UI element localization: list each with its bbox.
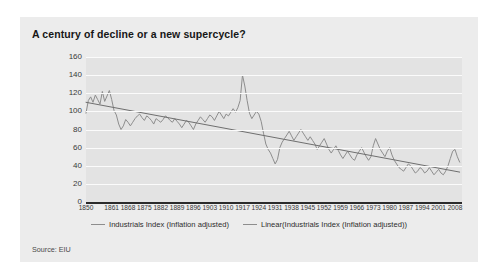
legend-label: Industrials Index (Inflation adjusted) bbox=[109, 220, 229, 229]
gridline bbox=[86, 75, 462, 76]
x-axis-tick-label: 1945 bbox=[301, 205, 316, 212]
chart-card: A century of decline or a new supercycle… bbox=[20, 17, 478, 262]
x-axis-tick-label: 1987 bbox=[399, 205, 414, 212]
y-axis-tick-label: 120 bbox=[69, 89, 82, 97]
legend-item[interactable]: Linear(Industrials Index (Inflation adju… bbox=[243, 220, 407, 229]
y-axis-tick-label: 20 bbox=[73, 180, 82, 188]
y-axis: 020406080100120140160 bbox=[56, 57, 82, 202]
y-axis-tick-label: 160 bbox=[69, 53, 82, 61]
y-axis-tick-label: 80 bbox=[73, 126, 82, 134]
y-axis-tick-label: 60 bbox=[73, 144, 82, 152]
x-axis-tick-label: 1861 bbox=[104, 205, 119, 212]
gridline bbox=[86, 148, 462, 149]
gridline bbox=[86, 166, 462, 167]
legend-swatch-icon bbox=[91, 224, 105, 225]
x-axis-tick-label: 1994 bbox=[415, 205, 430, 212]
x-axis-tick-label: 1889 bbox=[170, 205, 185, 212]
gridline bbox=[86, 184, 462, 185]
x-axis-tick-label: 1868 bbox=[121, 205, 136, 212]
series-line bbox=[86, 75, 460, 175]
x-axis-tick-label: 1959 bbox=[333, 205, 348, 212]
gridline bbox=[86, 111, 462, 112]
y-axis-tick-label: 100 bbox=[69, 107, 82, 115]
x-axis-tick-label: 2008 bbox=[448, 205, 463, 212]
x-axis-tick-label: 1896 bbox=[186, 205, 201, 212]
x-axis-tick-label: 1931 bbox=[268, 205, 283, 212]
x-axis-tick-label: 1917 bbox=[235, 205, 250, 212]
plot-area bbox=[86, 57, 462, 202]
x-axis-tick-label: 1952 bbox=[317, 205, 332, 212]
y-axis-tick-label: 40 bbox=[73, 162, 82, 170]
x-axis: 1850186118681875188218891896190319101917… bbox=[86, 205, 462, 217]
x-axis-tick-label: 1980 bbox=[382, 205, 397, 212]
x-axis-tick-label: 1875 bbox=[137, 205, 152, 212]
legend-label: Linear(Industrials Index (Inflation adju… bbox=[261, 220, 407, 229]
source-note: Source: EIU bbox=[32, 245, 71, 254]
x-axis-tick-label: 1850 bbox=[79, 205, 94, 212]
gridline bbox=[86, 130, 462, 131]
x-axis-tick-label: 1938 bbox=[284, 205, 299, 212]
legend: Industrials Index (Inflation adjusted)Li… bbox=[20, 220, 478, 229]
x-axis-tick-label: 1924 bbox=[251, 205, 266, 212]
x-axis-tick-label: 1882 bbox=[153, 205, 168, 212]
legend-item[interactable]: Industrials Index (Inflation adjusted) bbox=[91, 220, 229, 229]
legend-swatch-icon bbox=[243, 224, 257, 225]
gridline bbox=[86, 57, 462, 58]
plot-wrapper: 020406080100120140160 185018611868187518… bbox=[56, 57, 462, 212]
y-axis-tick-label: 140 bbox=[69, 71, 82, 79]
x-axis-tick-label: 1966 bbox=[350, 205, 365, 212]
x-axis-tick-label: 2001 bbox=[431, 205, 446, 212]
series-line bbox=[86, 102, 460, 172]
x-axis-tick-label: 1910 bbox=[219, 205, 234, 212]
gridline bbox=[86, 93, 462, 94]
x-axis-tick-label: 1903 bbox=[202, 205, 217, 212]
x-axis-tick-label: 1973 bbox=[366, 205, 381, 212]
page-title: A century of decline or a new supercycle… bbox=[32, 28, 246, 40]
